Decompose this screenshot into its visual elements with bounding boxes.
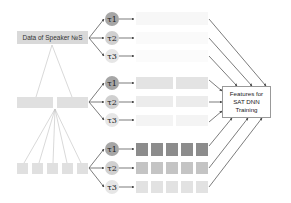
tau1-node-top: τ1: [105, 12, 119, 26]
half-segment-1: [17, 97, 53, 108]
feature-row-bottom-tau2-block-2: [151, 162, 163, 174]
fifth-segment-1: [17, 163, 28, 174]
feature-row-mid-tau1-block-1: [136, 77, 173, 89]
feature-row-bottom-tau2-block-4: [181, 162, 193, 174]
feature-row-bottom-tau1-block-2: [151, 143, 163, 156]
tau3-node-top: τ3: [105, 49, 119, 63]
feature-row-bottom-tau2-block-5: [196, 162, 208, 174]
tau3-node-bottom: τ3: [105, 180, 119, 194]
feature-row-mid-tau3-block-1: [136, 115, 173, 126]
root-speaker-box: Data of Speaker №S: [17, 31, 88, 44]
sat-dnn-features-box: Features for SAT DNN Training: [222, 86, 271, 118]
tau1-node-mid: τ1: [105, 76, 119, 90]
feature-row-bottom-tau3-block-3: [166, 181, 178, 193]
feature-row-bottom-tau1-block-1: [136, 143, 148, 156]
target-label-line-3: Training: [230, 106, 263, 114]
feature-row-top-tau2: [136, 32, 208, 44]
target-label-line-2: SAT DNN: [230, 98, 263, 106]
feature-row-mid-tau2-block-2: [176, 96, 208, 107]
feature-row-bottom-tau2-block-1: [136, 162, 148, 174]
feature-row-bottom-tau1-block-5: [196, 143, 208, 156]
feature-row-mid-tau3-block-2: [176, 115, 208, 126]
fifth-segment-2: [32, 163, 43, 174]
feature-row-bottom-tau3-block-5: [196, 181, 208, 193]
fifth-segment-3: [47, 163, 58, 174]
half-segment-2: [57, 97, 88, 108]
fifth-segment-4: [62, 163, 73, 174]
feature-row-bottom-tau2-block-3: [166, 162, 178, 174]
fifth-segment-5: [77, 163, 88, 174]
target-label-line-1: Features for: [230, 90, 263, 98]
feature-row-bottom-tau1-block-3: [166, 143, 178, 156]
feature-row-bottom-tau3-block-4: [181, 181, 193, 193]
feature-row-bottom-tau3-block-2: [151, 181, 163, 193]
tau2-node-mid: τ2: [105, 95, 119, 109]
feature-row-mid-tau1-block-2: [176, 77, 208, 89]
tau1-node-bottom: τ1: [105, 142, 119, 156]
feature-row-top-tau1: [136, 12, 208, 25]
feature-row-bottom-tau1-block-4: [181, 143, 193, 156]
feature-row-mid-tau2-block-1: [136, 96, 173, 107]
tau3-node-mid: τ3: [105, 113, 119, 127]
tau2-node-top: τ2: [105, 31, 119, 45]
root-label: Data of Speaker №S: [22, 34, 82, 41]
feature-row-top-tau3: [136, 50, 208, 62]
tau2-node-bottom: τ2: [105, 161, 119, 175]
feature-row-bottom-tau3-block-1: [136, 181, 148, 193]
